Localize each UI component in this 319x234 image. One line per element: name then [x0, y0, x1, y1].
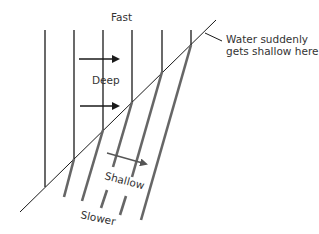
shallow-wavefront-3b: [101, 190, 107, 208]
shallow-wavefront-4b: [120, 196, 126, 215]
shallow-wavefront-1: [64, 159, 74, 197]
shallow-arrow: [107, 153, 146, 164]
label-deep: Deep: [92, 74, 120, 86]
shallow-wavefronts: [64, 45, 191, 220]
refraction-diagram: Fast Deep Water suddenly gets shallow he…: [0, 0, 319, 234]
shallow-wavefront-5: [141, 45, 191, 220]
label-slower: Slower: [80, 208, 118, 227]
diagram-canvas: Fast Deep Water suddenly gets shallow he…: [0, 0, 319, 234]
label-shallow: Shallow: [103, 169, 146, 191]
deep-wavefronts: [45, 30, 191, 187]
label-annotation-line1: Water suddenly: [226, 33, 308, 45]
label-fast: Fast: [111, 11, 132, 23]
label-annotation-line2: gets shallow here: [226, 45, 318, 57]
annotation-pointer: [205, 33, 222, 41]
